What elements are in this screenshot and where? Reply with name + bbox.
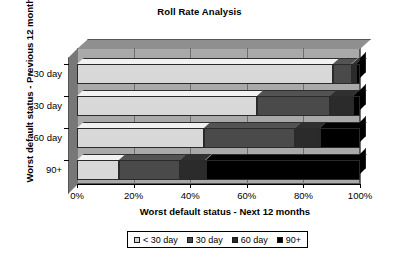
x-axis-tick-label: 80% xyxy=(281,190,325,201)
legend-swatch-icon xyxy=(187,237,193,243)
bar-segment xyxy=(295,128,320,148)
x-axis-tick xyxy=(303,184,304,188)
bar-segment xyxy=(180,160,205,180)
bar-segment xyxy=(77,160,119,180)
bar-segment-right-face xyxy=(360,52,366,78)
bar-segment xyxy=(333,64,351,84)
legend-label: 30 day xyxy=(196,235,223,245)
legend-swatch-icon xyxy=(232,237,238,243)
x-axis-tick-label: 100% xyxy=(338,190,382,201)
bar-segment xyxy=(77,96,257,116)
bar-segment xyxy=(320,128,360,148)
chart-title: Roll Rate Analysis xyxy=(0,6,399,17)
legend-label: < 30 day xyxy=(143,235,178,245)
y-axis-tick xyxy=(64,128,69,129)
x-axis-title: Worst default status - Next 12 months xyxy=(60,206,390,217)
y-axis-category-label: 60 day xyxy=(0,132,62,143)
bar-segment xyxy=(353,96,360,116)
bar-segment xyxy=(330,96,353,116)
bar-segment xyxy=(77,128,204,148)
bar-segment xyxy=(77,64,333,84)
x-axis-tick xyxy=(77,184,78,188)
bar-segment xyxy=(206,160,360,180)
x-axis-tick-label: 20% xyxy=(112,190,156,201)
y-axis-category-label: 90+ xyxy=(0,164,62,175)
y-axis-category-label: 30 day xyxy=(0,100,62,111)
legend: < 30 day30 day60 day90+ xyxy=(127,231,308,248)
x-axis-tick-label: 0% xyxy=(55,190,99,201)
legend-label: 90+ xyxy=(286,235,301,245)
x-axis-tick xyxy=(134,184,135,188)
y-axis-tick xyxy=(64,160,69,161)
x-axis-line xyxy=(77,184,361,185)
bar-segment-right-face xyxy=(360,148,366,174)
y-axis-category-label: <30 day xyxy=(0,68,62,79)
legend-swatch-icon xyxy=(277,237,283,243)
bar-segment-right-face xyxy=(360,84,366,110)
x-axis-tick xyxy=(360,184,361,188)
plot-top-face xyxy=(77,39,371,49)
bar-segment-right-face xyxy=(360,116,366,142)
legend-label: 60 day xyxy=(241,235,268,245)
bar-row xyxy=(77,96,360,116)
y-axis-tick xyxy=(64,96,69,97)
y-axis-title: Worst default status - Previous 12 month… xyxy=(24,13,35,183)
bar-row xyxy=(77,128,360,148)
legend-swatch-icon xyxy=(134,237,140,243)
bar-row xyxy=(77,160,360,180)
x-axis-tick-label: 60% xyxy=(225,190,269,201)
legend-item: 30 day xyxy=(187,235,223,245)
legend-item: < 30 day xyxy=(134,235,178,245)
bar-segment xyxy=(119,160,180,180)
bar-row xyxy=(77,64,360,84)
plot-area xyxy=(77,48,360,184)
x-axis-tick xyxy=(190,184,191,188)
chart-container: Roll Rate Analysis Worst default status … xyxy=(0,0,399,261)
legend-item: 90+ xyxy=(277,235,301,245)
x-axis-tick xyxy=(247,184,248,188)
bar-segment xyxy=(257,96,331,116)
bar-segment xyxy=(204,128,295,148)
y-axis-tick xyxy=(64,64,69,65)
legend-item: 60 day xyxy=(232,235,268,245)
x-axis-tick-label: 40% xyxy=(168,190,212,201)
